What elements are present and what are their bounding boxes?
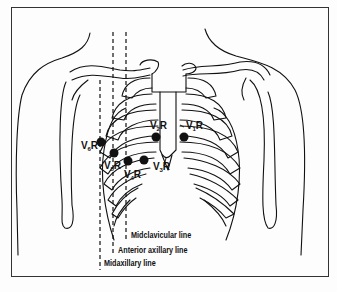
v1r-leader [180, 125, 184, 127]
label-v5r: V5R [104, 161, 121, 174]
legend-midaxillary: Midaxillary line [104, 258, 156, 268]
electrode-dot-v4r [124, 157, 133, 166]
electrode-dot-v5r [110, 149, 119, 158]
label-v2r: V2R [150, 121, 167, 134]
label-v1r: V1R [186, 121, 203, 134]
electrode-dot-v3r [140, 156, 149, 165]
label-v3r: V3R [153, 162, 170, 175]
legend-anterior-axillary: Anterior axillary line [118, 245, 187, 255]
legend-midclavicular: Midclavicular line [131, 230, 191, 240]
label-v6r: V6R [81, 141, 98, 154]
label-v4r: V4R [124, 170, 141, 183]
